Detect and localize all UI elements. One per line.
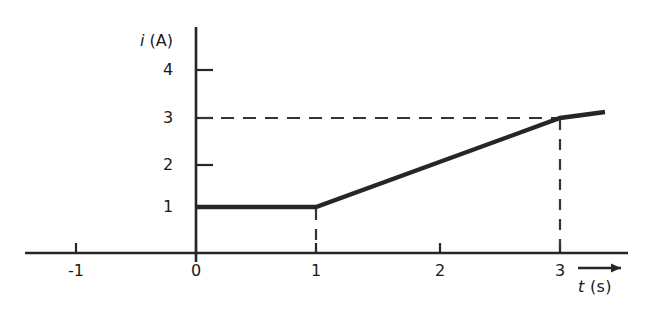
y-axis-unit: (A) bbox=[150, 31, 173, 50]
y-tick-label-3: 3 bbox=[154, 108, 182, 127]
y-tick-label-1: 1 bbox=[154, 197, 182, 216]
x-tick-label-2: 2 bbox=[420, 261, 460, 280]
x-tick-label-1: 1 bbox=[296, 261, 336, 280]
x-tick-label-minus1: -1 bbox=[56, 261, 96, 280]
y-tick-label-2: 2 bbox=[154, 155, 182, 174]
y-axis-title: i (A) bbox=[140, 31, 173, 50]
x-axis-arrow-head bbox=[611, 264, 621, 273]
x-tick-label-0: 0 bbox=[176, 261, 216, 280]
x-axis-title: t (s) bbox=[578, 277, 612, 296]
current-waveform-line bbox=[197, 112, 605, 207]
x-axis-unit: (s) bbox=[590, 277, 612, 296]
current-vs-time-chart: i (A) t (s) 4 3 2 1 -1 0 1 2 3 bbox=[0, 0, 646, 309]
x-tick-label-3: 3 bbox=[540, 261, 580, 280]
y-tick-label-4: 4 bbox=[154, 60, 182, 79]
